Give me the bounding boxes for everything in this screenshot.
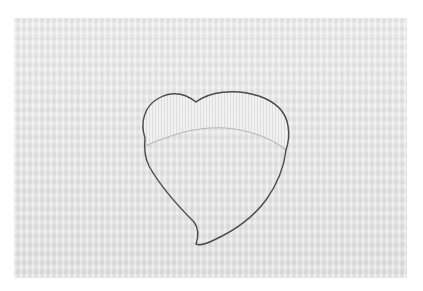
- fabric-photo: [14, 18, 407, 278]
- heart-outline: [14, 18, 407, 278]
